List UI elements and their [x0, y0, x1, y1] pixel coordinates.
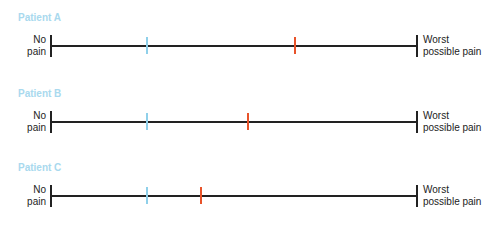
blue-marker	[146, 37, 148, 54]
patient-title: Patient C	[18, 162, 61, 173]
scale-line	[51, 45, 417, 47]
no-pain-label: Nopain	[16, 110, 46, 134]
worst-pain-label: Worstpossible pain	[423, 34, 481, 58]
worst-pain-label: Worstpossible pain	[423, 184, 481, 208]
right-endbar	[416, 185, 418, 207]
patient-title: Patient A	[18, 12, 61, 23]
red-marker	[247, 113, 249, 130]
red-marker	[200, 187, 202, 204]
patient-title: Patient B	[18, 88, 61, 99]
red-marker	[294, 37, 296, 54]
no-pain-label: Nopain	[16, 184, 46, 208]
worst-pain-label: Worstpossible pain	[423, 110, 481, 134]
right-endbar	[416, 111, 418, 133]
scale-line	[51, 195, 417, 197]
right-endbar	[416, 35, 418, 57]
no-pain-label: Nopain	[16, 34, 46, 58]
blue-marker	[146, 187, 148, 204]
scale-line	[51, 121, 417, 123]
blue-marker	[146, 113, 148, 130]
